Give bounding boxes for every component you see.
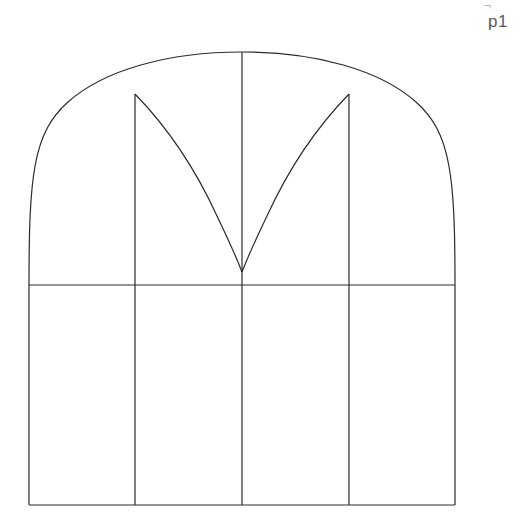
drawing-canvas: ¬ p1 bbox=[0, 0, 520, 530]
page-mark-glyph: ¬ bbox=[483, 0, 491, 12]
canvas-background bbox=[0, 0, 520, 530]
window-tracery-drawing bbox=[0, 0, 520, 530]
page-label: p1 bbox=[488, 13, 508, 30]
